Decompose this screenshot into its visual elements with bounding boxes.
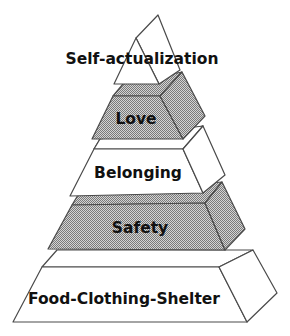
needs-pyramid-diagram: Food-Clothing-Shelter Safety Belonging L… xyxy=(0,0,290,336)
tier-food-top-face xyxy=(42,250,253,267)
tier-food-clothing-shelter: Food-Clothing-Shelter xyxy=(13,250,277,322)
tier-self-actualization: Self-actualization xyxy=(64,15,222,84)
tier-love-label: Love xyxy=(115,110,156,128)
tier-belonging-label: Belonging xyxy=(94,164,182,182)
tier-self-actualization-label: Self-actualization xyxy=(66,50,219,68)
tier-safety-label: Safety xyxy=(112,219,168,237)
tier-food-label: Food-Clothing-Shelter xyxy=(28,290,220,308)
